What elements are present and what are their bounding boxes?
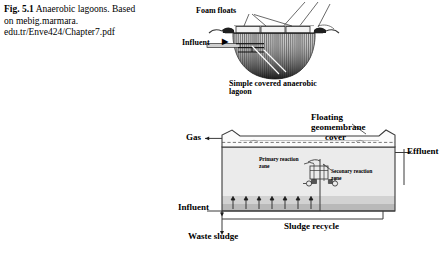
label-simple-covered-lagoon-line-2: lagoon <box>229 88 252 97</box>
label-sludge-recycle: Sludge recycle <box>284 222 339 232</box>
figure-page: Fig. 5.1 Anaerobic lagoons. Based on meb… <box>0 0 448 279</box>
influent-header-line <box>207 211 395 215</box>
bottom-reactor-drawing <box>205 124 411 235</box>
geomembrane-cover <box>222 130 395 147</box>
label-effluent: Effluent <box>407 147 439 157</box>
label-secondary-zone-line-2: zone <box>331 175 341 181</box>
label-floating-cover-line-3: cover <box>325 133 346 143</box>
label-secondary-zone-line-1: Seconary reaction <box>331 168 372 174</box>
label-waste-sludge: Waste sludge <box>188 232 238 242</box>
sludge-recycle-loop <box>222 211 383 219</box>
gas-offtake-line <box>205 137 222 141</box>
label-primary-zone-line-1: Primary reaction <box>259 156 298 162</box>
label-influent-bottom: Influent <box>178 203 209 213</box>
label-primary-zone-line-2: zone <box>259 163 269 169</box>
influent-arrow-top-icon: ▶ <box>222 38 228 47</box>
label-gas: Gas <box>186 133 201 143</box>
label-foam-floats: Foam floats <box>196 7 236 16</box>
label-influent-top: Influent <box>182 39 210 48</box>
foam-floats-leader-lines <box>244 2 330 27</box>
foam-float-panels <box>234 26 314 34</box>
